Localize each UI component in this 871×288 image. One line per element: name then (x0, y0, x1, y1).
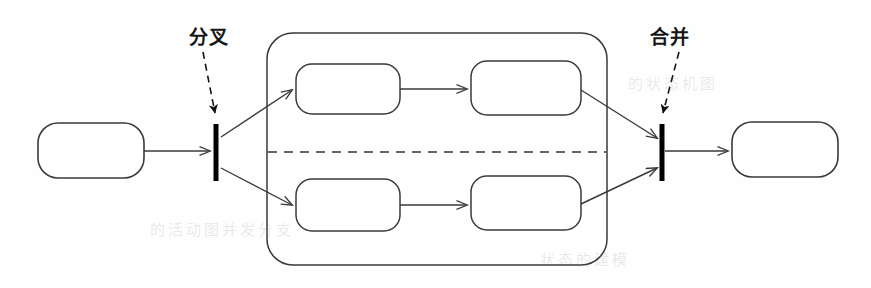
node-bottom-activity-1[interactable] (296, 179, 400, 231)
join-annotation-label: 合并 (650, 28, 690, 47)
diagram-vector-layer (0, 0, 871, 288)
fork-annotation-leader-line (203, 52, 215, 113)
fork-annotation-label: 分叉 (189, 28, 229, 47)
join-annotation-leader-line (663, 52, 679, 113)
node-top-activity-2[interactable] (471, 61, 581, 115)
node-top-activity-1[interactable] (296, 64, 400, 114)
node-start-activity[interactable] (38, 123, 144, 178)
node-end-activity[interactable] (732, 122, 838, 177)
activity-diagram-canvas: 分叉 合并 的状态机图 的活动图并发分支 状态的建模 (0, 0, 871, 288)
node-bottom-activity-2[interactable] (471, 176, 581, 230)
